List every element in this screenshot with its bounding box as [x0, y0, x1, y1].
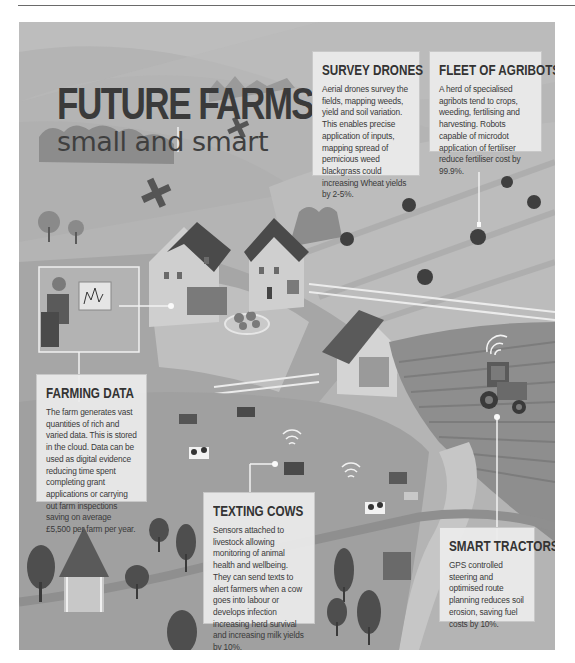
card-heading: SMART TRACTORS — [449, 537, 508, 554]
card-body: A herd of specialised agribots tend to c… — [439, 84, 532, 178]
card-body: Sensors attached to livestock allowing m… — [213, 525, 305, 650]
infographic-panel: FUTURE FARMS small and smart SURVEY DRON… — [19, 22, 555, 650]
card-fleet-of-agribots: FLEET OF AGRIBOTS A herd of specialised … — [429, 51, 542, 152]
card-texting-cows: TEXTING COWS Sensors attached to livesto… — [203, 492, 315, 624]
card-heading: TEXTING COWS — [213, 502, 285, 519]
title-main: FUTURE FARMS — [57, 82, 313, 126]
card-heading: FLEET OF AGRIBOTS — [439, 61, 512, 78]
card-smart-tractors: SMART TRACTORS GPS controlled steering a… — [439, 527, 535, 622]
card-body: Aerial drones survey the fields, mapping… — [322, 84, 410, 201]
card-survey-drones: SURVEY DRONES Aerial drones survey the f… — [312, 51, 420, 176]
card-body: GPS controlled steering and optimised ro… — [449, 560, 525, 630]
card-body: The farm generates vast quantities of ri… — [46, 407, 137, 536]
card-heading: FARMING DATA — [46, 384, 117, 401]
card-heading: SURVEY DRONES — [322, 61, 391, 78]
top-divider-line — [18, 5, 575, 6]
card-farming-data: FARMING DATA The farm generates vast qua… — [36, 374, 147, 502]
